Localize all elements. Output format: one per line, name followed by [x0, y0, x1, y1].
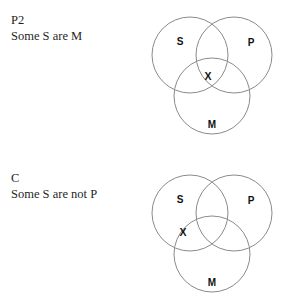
premise-caption: P2 Some S are M: [11, 12, 82, 44]
premise-venn-diagram: S P M X: [148, 4, 286, 149]
label-m: M: [208, 277, 216, 288]
x-marker: X: [179, 226, 186, 238]
premise-block: P2 Some S are M S P M X: [0, 0, 289, 160]
conclusion-caption: C Some S are not P: [11, 170, 97, 202]
conclusion-venn-diagram: S P M X: [148, 162, 286, 307]
label-s: S: [177, 194, 184, 205]
premise-statement: Some S are M: [11, 28, 82, 44]
premise-tag: P2: [11, 12, 82, 28]
label-p: P: [248, 37, 255, 48]
circle-p: [196, 175, 272, 251]
conclusion-tag: C: [11, 170, 97, 186]
x-marker: X: [204, 70, 211, 82]
label-m: M: [208, 119, 216, 130]
circle-s: [152, 175, 228, 251]
label-p: P: [248, 195, 255, 206]
conclusion-statement: Some S are not P: [11, 186, 97, 202]
conclusion-block: C Some S are not P S P M X: [0, 158, 289, 307]
label-s: S: [177, 36, 184, 47]
circle-s: [152, 17, 228, 93]
